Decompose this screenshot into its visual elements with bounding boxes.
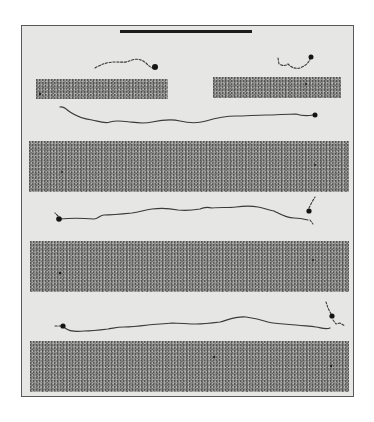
scale-bar (120, 30, 252, 33)
figure-description: Electron micrograph-style figure of elon… (22, 26, 23, 27)
band-short-left (36, 79, 168, 99)
band-2 (30, 241, 349, 292)
band-short-right (213, 77, 341, 98)
band-1 (29, 141, 349, 192)
band-3 (30, 341, 349, 392)
